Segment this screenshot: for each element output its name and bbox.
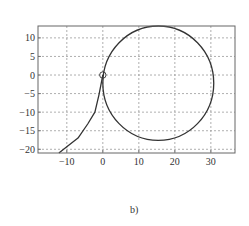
y-tick-label: −10 bbox=[19, 107, 35, 118]
x-tick-label: 20 bbox=[170, 156, 180, 167]
y-tick-label: −15 bbox=[19, 125, 35, 136]
x-tick-label: 30 bbox=[206, 156, 216, 167]
plot-frame bbox=[38, 26, 235, 153]
circle-curve bbox=[103, 26, 214, 140]
chart: −1001020301050−5−10−15−20 bbox=[0, 0, 249, 226]
x-tick-label: −10 bbox=[59, 156, 75, 167]
y-tick-label: 5 bbox=[30, 51, 35, 62]
y-tick-label: 0 bbox=[30, 70, 35, 81]
axis-ticks: −1001020301050−5−10−15−20 bbox=[19, 32, 216, 167]
x-tick-label: 0 bbox=[100, 156, 105, 167]
y-tick-label: 10 bbox=[25, 32, 35, 43]
y-tick-label: −20 bbox=[19, 144, 35, 155]
tail-curve bbox=[59, 75, 103, 153]
figure-caption: b) bbox=[130, 204, 138, 215]
x-tick-label: 10 bbox=[134, 156, 144, 167]
data-series bbox=[59, 26, 214, 153]
y-tick-label: −5 bbox=[24, 88, 35, 99]
grid-lines bbox=[38, 26, 235, 153]
